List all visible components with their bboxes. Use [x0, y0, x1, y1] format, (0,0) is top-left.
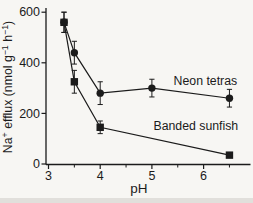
data-point-square-marker: [60, 19, 67, 26]
series-neon-tetras: Neon tetras: [60, 12, 237, 107]
data-point-square-marker: [97, 124, 104, 131]
data-point-square-marker: [226, 151, 233, 158]
y-axis-title: Na+ efflux (nmol g−1 h−1): [0, 21, 15, 153]
series-label-banded-sunfish: Banded sunfish: [153, 119, 238, 133]
x-tick-label: 3: [45, 169, 52, 183]
data-point-circle-marker: [226, 95, 233, 102]
x-axis-title: pH: [130, 181, 147, 196]
scan-artifact-band: [0, 198, 253, 203]
y-tick-label: 200: [19, 107, 40, 121]
y-tick-label: 600: [19, 5, 40, 19]
data-point-square-marker: [71, 78, 78, 85]
y-tick-label: 400: [19, 56, 40, 70]
chart-canvas: 02004006003456pHNa+ efflux (nmol g−1 h−1…: [0, 0, 253, 203]
x-tick-label: 5: [148, 169, 155, 183]
data-point-circle-marker: [71, 49, 78, 56]
chart-figure: 02004006003456pHNa+ efflux (nmol g−1 h−1…: [0, 0, 253, 203]
series-label-neon-tetras: Neon tetras: [174, 74, 238, 88]
x-tick-label: 6: [200, 169, 207, 183]
x-tick-label: 4: [97, 169, 104, 183]
data-point-circle-marker: [97, 89, 104, 96]
y-tick-label: 0: [33, 157, 40, 171]
data-point-circle-marker: [148, 84, 155, 91]
